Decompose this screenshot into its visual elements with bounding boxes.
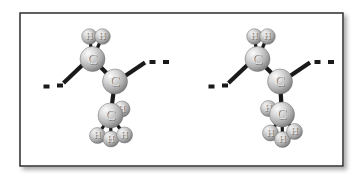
chain-bond-left-dash-1: [44, 85, 50, 89]
atom-label-h: H: [86, 30, 93, 41]
atom-h-bottom-right: HH: [117, 127, 133, 143]
atom-c-center: CC: [103, 69, 128, 94]
atom-h-top-right: HH: [260, 29, 276, 45]
atom-c-upper: CC: [80, 47, 105, 72]
chain-bond-left-dash-0: [222, 84, 228, 88]
atom-label-c: C: [274, 72, 284, 89]
atom-label-h: H: [251, 30, 258, 41]
chain-bond-right-dash-1: [328, 60, 334, 64]
atom-label-c: C: [276, 105, 286, 122]
chain-bond-left-dash-1: [209, 85, 215, 89]
chain-bond-right-dash-0: [150, 60, 156, 64]
chain-bond-right-dash-1: [163, 60, 169, 64]
atom-label-c: C: [109, 72, 119, 89]
atom-label-h: H: [266, 127, 273, 138]
chain-bond-left-dash-0: [57, 84, 63, 88]
atom-label-h: H: [120, 129, 127, 140]
atom-h-bottom-right: HH: [287, 124, 303, 140]
atom-c-upper: CC: [245, 47, 270, 72]
atom-c-center: CC: [268, 69, 293, 94]
atom-label-h: H: [290, 125, 297, 136]
atom-label-h: H: [99, 30, 106, 41]
atom-label-c: C: [87, 50, 97, 67]
atom-c-lower: CC: [98, 103, 123, 128]
atom-label-c: C: [105, 106, 115, 123]
atom-label-h: H: [107, 133, 114, 144]
frame-border: [20, 13, 343, 166]
atom-label-h: H: [278, 133, 285, 144]
molecule-canvas: HHHHCCCCHHCCHHHHHHHHHHCCCCHHCCHHHHHH: [0, 0, 363, 188]
atom-c-lower: CC: [270, 102, 295, 127]
atom-h-top-right: HH: [95, 29, 111, 45]
molecular-model-figure: HHHHCCCCHHCCHHHHHHHHHHCCCCHHCCHHHHHH: [0, 0, 363, 188]
atom-label-c: C: [252, 50, 262, 67]
atom-label-h: H: [264, 30, 271, 41]
figure-frame: [20, 13, 343, 166]
chain-bond-right-dash-0: [315, 60, 321, 64]
atom-label-h: H: [93, 129, 100, 140]
